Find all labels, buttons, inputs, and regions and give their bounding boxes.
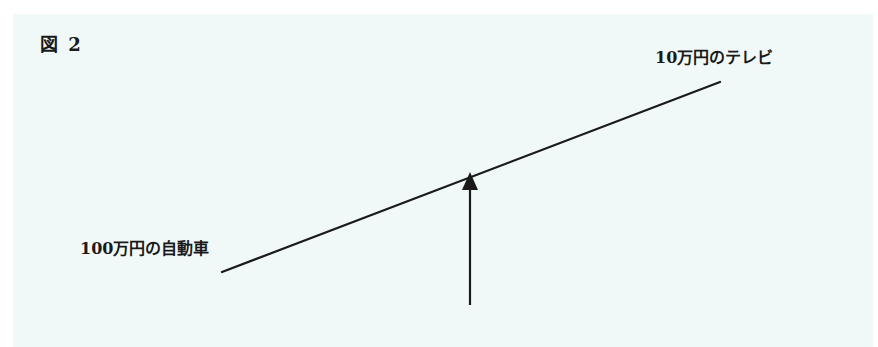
lever-diagram [0,0,878,347]
